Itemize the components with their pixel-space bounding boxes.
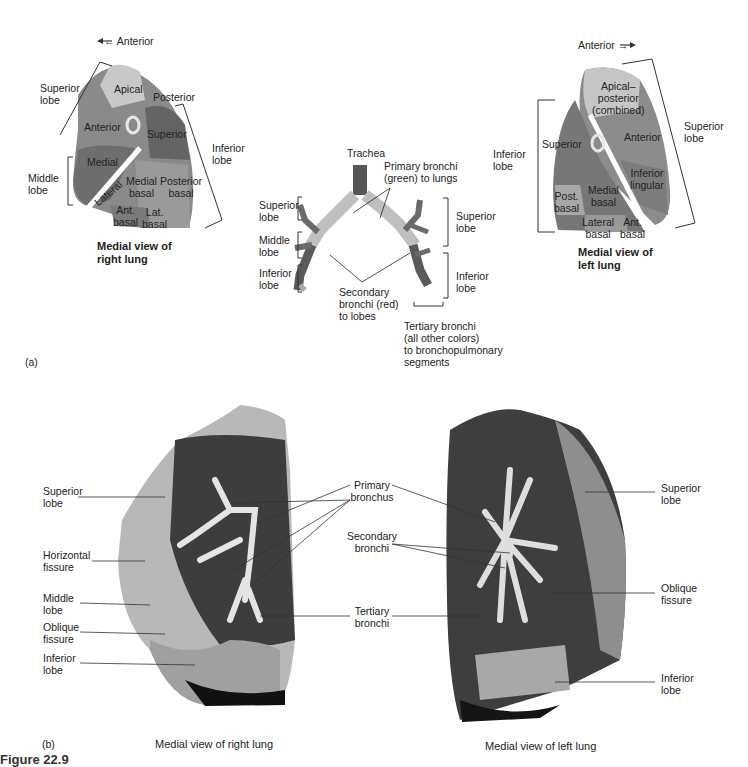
- segment-anterior: Anterior: [84, 121, 121, 133]
- segment-posterior-basal: Posterior basal: [160, 175, 202, 199]
- right-lung-illustration: [60, 38, 222, 228]
- segment-medial-basal: Medial basal: [126, 175, 157, 199]
- photo-secondary-bronchi: Secondary bronchi: [345, 530, 399, 554]
- segment-inferior-lingular: Inferior lingular: [630, 167, 664, 191]
- segment-left-superior: Superior: [542, 138, 582, 150]
- right-photo-caption: Medial view of right lung: [155, 738, 273, 751]
- left-lung-photo: [446, 409, 625, 722]
- segment-apical: Apical: [114, 83, 143, 95]
- segment-lateral-basal: Lateral basal: [582, 216, 614, 240]
- left-lung-title: Medial view of left lung: [578, 246, 653, 272]
- segment-lat-basal: Lat. basal: [142, 206, 167, 230]
- tree-right-inferior-lobe-label: Inferior lobe: [456, 270, 489, 294]
- photo-left-superior-lobe: Superior lobe: [661, 482, 701, 506]
- segment-apical-posterior: Apical– posterior (combined): [592, 80, 645, 116]
- panel-a-label: (a): [25, 356, 38, 368]
- photo-primary-bronchus: Primary bronchus: [350, 479, 394, 503]
- photo-right-horizontal-fissure: Horizontal fissure: [43, 549, 90, 573]
- segment-posterior: Posterior: [153, 91, 195, 103]
- tree-middle-lobe-label: Middle lobe: [259, 234, 290, 258]
- secondary-bronchi-label: Secondary bronchi (red) to lobes: [339, 286, 399, 322]
- tree-superior-lobe-label: Superior lobe: [259, 199, 299, 223]
- segment-left-anterior: Anterior: [624, 131, 661, 143]
- right-lung-photo: [118, 405, 295, 706]
- trachea-label: Trachea: [347, 147, 385, 159]
- photo-right-middle-lobe: Middle lobe: [43, 592, 74, 616]
- bronchial-tree-illustration: [295, 165, 448, 306]
- photo-right-superior-lobe: Superior lobe: [43, 485, 83, 509]
- tree-inferior-lobe-label: Inferior lobe: [259, 267, 292, 291]
- left-lung-anterior-direction: Anterior →: [578, 39, 628, 51]
- figure-label: Figure 22.9: [0, 752, 69, 767]
- tertiary-bronchi-label: Tertiary bronchi (all other colors) to b…: [404, 320, 503, 368]
- right-inferior-lobe-label: Inferior lobe: [212, 142, 245, 166]
- photo-right-inferior-lobe: Inferior lobe: [43, 652, 76, 676]
- segment-left-medial-basal: Medial basal: [588, 184, 619, 208]
- segment-medial: Medial: [87, 156, 118, 168]
- photo-right-oblique-fissure: Oblique fissure: [43, 621, 79, 645]
- right-lung-anterior-direction: ← Anterior: [104, 35, 154, 47]
- segment-left-ant-basal: Ant. basal: [620, 216, 645, 240]
- right-middle-lobe-label: Middle lobe: [28, 172, 59, 196]
- left-inferior-lobe-label: Inferior lobe: [493, 148, 526, 172]
- right-lung-title: Medial view of right lung: [97, 240, 172, 266]
- panel-b-label: (b): [42, 738, 55, 750]
- left-photo-caption: Medial view of left lung: [485, 740, 596, 753]
- photo-left-inferior-lobe: Inferior lobe: [661, 672, 694, 696]
- left-superior-lobe-label: Superior lobe: [684, 120, 724, 144]
- photo-tertiary-bronchi: Tertiary bronchi: [350, 605, 394, 629]
- segment-superior: Superior: [147, 128, 187, 140]
- tree-right-superior-lobe-label: Superior lobe: [456, 210, 496, 234]
- segment-post-basal: Post. basal: [554, 190, 579, 214]
- primary-bronchi-label: Primary bronchi (green) to lungs: [384, 160, 458, 184]
- right-superior-lobe-label: Superior lobe: [40, 82, 80, 106]
- photo-left-oblique-fissure: Oblique fissure: [661, 582, 697, 606]
- segment-ant-basal: Ant. basal: [113, 204, 138, 228]
